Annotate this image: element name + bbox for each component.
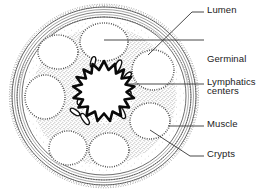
label-lymphatics: Lymphatics [207,77,256,88]
germinal-center [89,133,129,167]
germinal-center [25,75,65,119]
germinal-center [49,131,87,165]
label-crypts: Crypts [207,149,235,160]
label-lumen: Lumen [207,5,237,16]
label-muscle: Muscle [207,119,238,130]
label-germinal-centers: Germinal centers [207,33,246,117]
figure-page: Lumen Germinal centers Lymphatics Muscle… [0,0,267,190]
label-germinal-centers-line1: Germinal [207,54,246,65]
germinal-center [130,103,170,139]
germinal-center [80,23,128,61]
